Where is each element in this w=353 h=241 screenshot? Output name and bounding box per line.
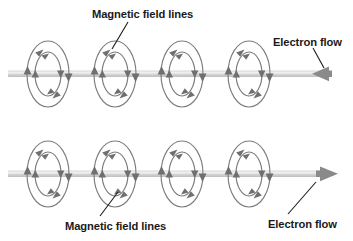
top-electron-flow-arrowhead <box>312 67 332 82</box>
bottom-electron-flow-arrowhead <box>316 167 338 182</box>
top-flow-label: Electron flow <box>273 36 342 48</box>
magnetic-field-diagram: Magnetic field lines Electron flow <box>0 0 353 241</box>
bottom-field-label-leader <box>100 192 118 216</box>
top-wire-shaft <box>8 71 324 78</box>
bottom-field-label: Magnetic field lines <box>65 220 166 232</box>
top-wire-group: Magnetic field lines Electron flow <box>8 8 342 107</box>
diagram-canvas: Magnetic field lines Electron flow <box>0 0 353 241</box>
bottom-flow-label: Electron flow <box>268 218 337 230</box>
bottom-flow-label-leader <box>288 182 316 214</box>
top-flow-label-leader <box>313 48 324 68</box>
top-field-label: Magnetic field lines <box>92 8 193 20</box>
bottom-wire-group: Magnetic field lines Electron flow <box>8 141 338 232</box>
